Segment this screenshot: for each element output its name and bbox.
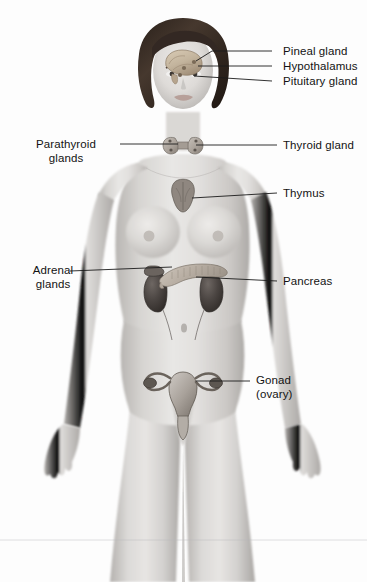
parathyroid-lower-left (169, 148, 172, 151)
ovary-right (210, 378, 223, 388)
label-adrenal-glands-line-1: glands (14, 278, 92, 292)
label-gonad-ovary: Gonad(ovary) (256, 374, 292, 401)
label-pancreas-line-0: Pancreas (283, 275, 332, 289)
label-pancreas: Pancreas (283, 275, 332, 289)
label-thymus-line-0: Thymus (283, 187, 325, 201)
label-adrenal-glands-line-0: Adrenal (14, 264, 92, 278)
nipple-right (213, 231, 224, 242)
label-pineal-gland: Pineal gland (283, 45, 348, 59)
label-pituitary-gland: Pituitary gland (283, 75, 357, 89)
label-pituitary-gland-line-0: Pituitary gland (283, 75, 357, 89)
label-parathyroid-glands: Parathyroidglands (16, 138, 116, 165)
label-thymus: Thymus (283, 187, 325, 201)
breast-right (187, 206, 241, 258)
label-gonad-ovary-line-1: (ovary) (256, 388, 292, 402)
nipple-left (144, 231, 155, 242)
label-parathyroid-glands-line-1: glands (16, 152, 116, 166)
label-hypothalamus: Hypothalamus (283, 60, 358, 74)
parathyroid-upper-left (168, 139, 171, 142)
pituitary-marker (178, 73, 182, 77)
label-adrenal-glands: Adrenalglands (14, 264, 92, 291)
pineal-marker (192, 60, 196, 64)
label-thyroid-gland: Thyroid gland (283, 139, 354, 153)
ovary-left (144, 378, 157, 388)
navel (181, 324, 187, 333)
hypothalamus-marker (182, 66, 186, 70)
label-hypothalamus-line-0: Hypothalamus (283, 60, 358, 74)
label-gonad-ovary-line-0: Gonad (256, 374, 292, 388)
parathyroid-upper-right (194, 139, 197, 142)
label-pineal-gland-line-0: Pineal gland (283, 45, 348, 59)
label-parathyroid-glands-line-0: Parathyroid (16, 138, 116, 152)
label-thyroid-gland-line-0: Thyroid gland (283, 139, 354, 153)
breast-left (126, 206, 180, 258)
parathyroid-lower-right (193, 148, 196, 151)
